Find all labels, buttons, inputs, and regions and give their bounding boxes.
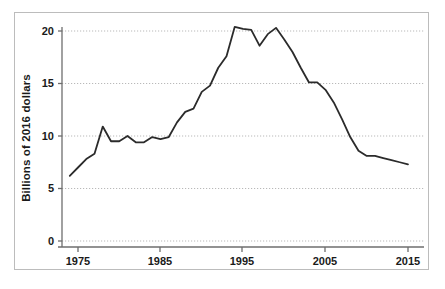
- x-tick-1985: 1985: [136, 255, 184, 267]
- y-tick-5: 5: [20, 182, 54, 194]
- line-chart-plot: [0, 0, 445, 289]
- data-series-line: [70, 27, 408, 176]
- y-tick-10: 10: [20, 130, 54, 142]
- y-tick-20: 20: [20, 25, 54, 37]
- y-axis-line: [58, 27, 62, 247]
- x-tick-2005: 2005: [301, 255, 349, 267]
- y-tick-15: 15: [20, 77, 54, 89]
- gridlines: [62, 31, 424, 241]
- x-tick-1975: 1975: [54, 255, 102, 267]
- x-tick-2015: 2015: [384, 255, 432, 267]
- y-tick-0: 0: [20, 235, 54, 247]
- x-tick-1995: 1995: [218, 255, 266, 267]
- x-axis-line: [58, 247, 424, 252]
- chart-figure: Billions of 2016 dollars 0 5 10 15 20 19…: [0, 0, 445, 289]
